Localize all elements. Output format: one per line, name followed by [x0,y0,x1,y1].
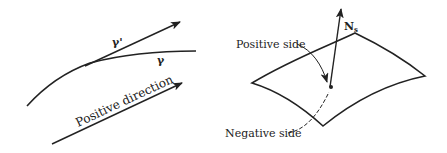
normal-label: Ns [344,20,358,34]
positive-direction-label: Positive direction [73,72,175,130]
negative-side-label: Negative side [225,127,302,140]
base-point [329,85,333,89]
surface-diagram: Ns Positive side Negative side [225,9,425,140]
diagram-canvas: γ' γ Positive direction Ns Positive side… [0,0,447,153]
tangent-arrow [85,22,180,66]
normal-arrow [330,9,341,87]
positive-side-label: Positive side [236,38,306,51]
positive-direction-arrow [52,83,182,144]
curve-diagram: γ' γ Positive direction [27,22,196,144]
tangent-label: γ' [112,36,123,49]
curve-label: γ [157,54,165,67]
